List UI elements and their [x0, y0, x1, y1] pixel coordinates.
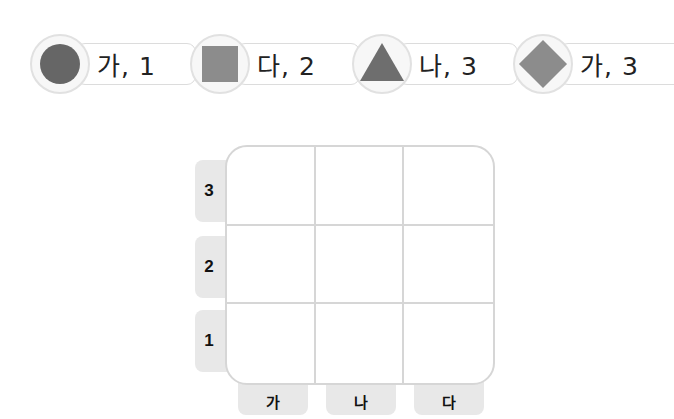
coordinate-grid: [225, 145, 495, 385]
grid-cell-ga-2[interactable]: [227, 226, 316, 305]
grid-cell-da-1[interactable]: [404, 304, 493, 383]
circle-icon: [40, 44, 80, 84]
clue-label: 가, 1: [76, 43, 196, 85]
grid-cell-da-3[interactable]: [404, 147, 493, 226]
col-label-da: 다: [414, 381, 484, 415]
grid-cell-ga-3[interactable]: [227, 147, 316, 226]
square-icon: [202, 46, 238, 82]
grid-cell-na-3[interactable]: [316, 147, 405, 226]
col-label-ga: 가: [238, 381, 308, 415]
grid-cell-na-2[interactable]: [316, 226, 405, 305]
diamond-icon: [519, 40, 567, 88]
grid-cell-na-1[interactable]: [316, 304, 405, 383]
triangle-icon: [360, 43, 404, 81]
clue-label: 다, 2: [236, 43, 360, 85]
diamond-badge: [513, 34, 573, 94]
row-label-1: 1: [195, 310, 229, 372]
clue-label: 나, 3: [398, 43, 518, 85]
row-label-3: 3: [195, 160, 229, 222]
triangle-badge: [352, 34, 412, 94]
square-badge: [190, 34, 250, 94]
grid-cell-ga-1[interactable]: [227, 304, 316, 383]
circle-badge: [30, 34, 90, 94]
clue-label: 가, 3: [559, 43, 674, 85]
grid-cell-da-2[interactable]: [404, 226, 493, 305]
col-label-na: 나: [326, 381, 396, 415]
row-label-2: 2: [195, 236, 229, 298]
